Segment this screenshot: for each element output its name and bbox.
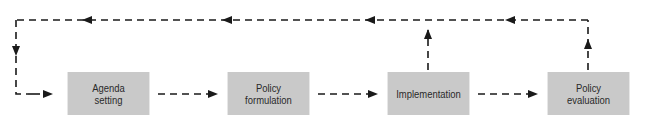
arrowhead-left-icon	[222, 16, 232, 24]
arrowhead-right-icon	[43, 90, 53, 98]
arrowhead-left-icon	[82, 16, 92, 24]
arrowhead-left-icon	[365, 16, 375, 24]
box-label-line1: Policy	[567, 82, 610, 94]
box-label-line1: Policy	[245, 82, 292, 94]
box-label-line2: formulation	[245, 94, 292, 106]
box-policy-formulation: Policy formulation	[228, 72, 310, 115]
arrowhead-right-icon	[528, 90, 538, 98]
box-label-line1: Implementation	[396, 88, 461, 100]
feedback-line-left	[16, 20, 28, 94]
box-policy-evaluation: Policy evaluation	[548, 72, 630, 115]
box-agenda-setting: Agenda setting	[68, 72, 150, 115]
box-implementation: Implementation	[388, 72, 470, 115]
box-label-line1: Agenda	[92, 82, 125, 94]
arrowhead-up-icon	[584, 39, 592, 49]
box-label-line2: setting	[92, 94, 125, 106]
arrowhead-right-icon	[208, 90, 218, 98]
arrowhead-right-icon	[368, 90, 378, 98]
arrowhead-up-icon	[424, 29, 432, 39]
box-label-line2: evaluation	[567, 94, 610, 106]
arrowhead-left-icon	[505, 16, 515, 24]
arrowhead-down-icon	[12, 46, 20, 56]
